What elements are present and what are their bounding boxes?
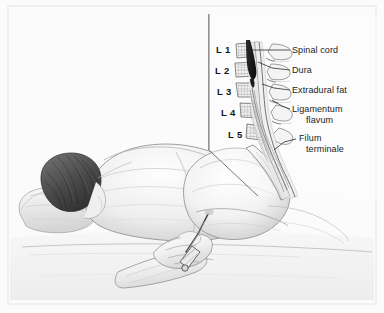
structure-label-spinal-cord: Spinal cord bbox=[292, 45, 338, 56]
puncture-site bbox=[204, 209, 213, 215]
structure-label-extradural-fat: Extradural fat bbox=[292, 85, 347, 96]
structure-label-ligamentum-flavum-line2: flavum bbox=[306, 115, 333, 126]
vertebra-label-l4: L 4 bbox=[221, 107, 236, 118]
structure-label-dura: Dura bbox=[292, 65, 312, 76]
vertebra-label-l1: L 1 bbox=[216, 44, 231, 55]
structure-label-filum-terminale-line2: terminale bbox=[306, 144, 344, 155]
vertebra-label-l3: L 3 bbox=[217, 86, 232, 97]
vertebra-label-l2: L 2 bbox=[215, 65, 230, 76]
vertebra-label-l5: L 5 bbox=[228, 129, 243, 140]
structure-label-ligamentum-flavum-line1: Ligamentum bbox=[292, 104, 343, 115]
lumbar-puncture-figure: L 1 L 2 L 3 L 4 L 5 Spinal cord Dura Ext… bbox=[0, 0, 384, 313]
needle-cap bbox=[182, 265, 188, 271]
structure-label-filum-terminale-line1: Filum bbox=[299, 133, 322, 144]
